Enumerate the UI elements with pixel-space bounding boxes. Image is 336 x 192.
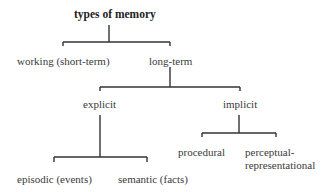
node-implicit: implicit <box>223 98 257 110</box>
node-explicit: explicit <box>83 98 116 110</box>
diagram-title: types of memory <box>74 8 156 20</box>
node-perceptual-line1: perceptual- <box>245 146 294 158</box>
node-semantic: semantic (facts) <box>118 173 188 185</box>
node-working-memory: working (short-term) <box>17 55 110 67</box>
node-procedural: procedural <box>178 146 225 158</box>
node-perceptual-line2: representational <box>245 159 315 171</box>
node-episodic: episodic (events) <box>17 173 92 185</box>
node-long-term-memory: long-term <box>149 55 192 67</box>
